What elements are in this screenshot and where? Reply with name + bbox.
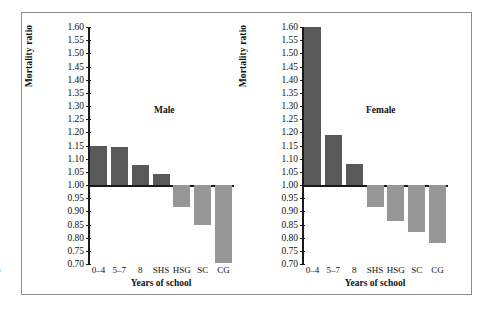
y-tick-label: 1.60: [281, 22, 298, 33]
chart-panel-male: Mortality ratio 1.601.551.501.451.401.35…: [30, 13, 246, 294]
y-tick-label: 1.15: [67, 140, 84, 151]
y-tick-label: 1.10: [67, 153, 84, 164]
y-tick-label: 0.75: [67, 245, 84, 256]
bar-HSG: [173, 185, 190, 207]
bar-HSG: [387, 185, 404, 221]
x-category-label: 0–4: [92, 265, 106, 275]
y-tick-label: 1.05: [67, 166, 84, 177]
x-category-label: 5–7: [327, 265, 341, 275]
figure-frame: Mortality ratio 1.601.551.501.451.401.35…: [21, 12, 472, 295]
y-tick-label: 1.30: [67, 101, 84, 112]
y-tick-label: 1.20: [281, 127, 298, 138]
y-tick-label: 0.90: [67, 206, 84, 217]
bar-57: [325, 135, 342, 185]
y-tick-label: 0.95: [67, 193, 84, 204]
y-axis-title-female: Mortality ratio: [238, 1, 248, 111]
bar-SHS: [153, 174, 170, 185]
y-tick-label: 1.40: [281, 74, 298, 85]
y-tick-label: 0.75: [281, 245, 298, 256]
panel-title-male: Male: [154, 105, 175, 115]
bar-8: [346, 164, 363, 185]
margin-glyph: s: [0, 264, 1, 274]
y-tick-label: 1.05: [281, 166, 298, 177]
plot-area-male: [88, 27, 234, 264]
bar-04: [90, 146, 107, 186]
y-tick-label: 0.80: [281, 232, 298, 243]
bar-SC: [408, 185, 425, 232]
bar-04: [304, 27, 321, 185]
y-tick-label: 1.40: [67, 74, 84, 85]
y-tick-label: 1.55: [281, 35, 298, 46]
x-category-label: SC: [197, 265, 208, 275]
baseline-male: [88, 185, 234, 187]
y-tick-label: 1.00: [67, 180, 84, 191]
y-tick-label: 0.85: [281, 219, 298, 230]
x-category-label: HSG: [173, 265, 191, 275]
bar-8: [132, 165, 149, 185]
y-tick-label: 1.25: [67, 114, 84, 125]
y-tick-label: 1.35: [67, 87, 84, 98]
x-category-label: CG: [431, 265, 444, 275]
y-tick-label: 0.70: [67, 259, 84, 270]
y-axis-ticks-female: 1.601.551.501.451.401.351.301.251.201.15…: [262, 27, 298, 264]
x-category-label: 8: [138, 265, 143, 275]
panel-title-female: Female: [366, 105, 396, 115]
y-tick-label: 1.25: [281, 114, 298, 125]
bar-CG: [429, 185, 446, 243]
x-category-label: CG: [217, 265, 230, 275]
x-category-label: SC: [411, 265, 422, 275]
y-tick-label: 1.15: [281, 140, 298, 151]
x-category-label: 0–4: [306, 265, 320, 275]
y-tick-label: 1.50: [67, 48, 84, 59]
bar-SHS: [367, 185, 384, 207]
x-axis-title-male: Years of school: [76, 278, 246, 288]
x-category-label: SHS: [367, 265, 384, 275]
y-tick-label: 1.35: [281, 87, 298, 98]
x-category-label: HSG: [387, 265, 405, 275]
y-axis-title-male: Mortality ratio: [24, 1, 34, 111]
y-axis-ticks-male: 1.601.551.501.451.401.351.301.251.201.15…: [48, 27, 84, 264]
x-category-label: SHS: [153, 265, 170, 275]
x-axis-categories-female: 0–45–78SHSHSGSCCG: [302, 265, 448, 279]
y-tick-label: 1.00: [281, 180, 298, 191]
y-tick-label: 1.45: [67, 61, 84, 72]
plot-area-female: [302, 27, 448, 264]
y-tick-label: 1.10: [281, 153, 298, 164]
y-tick-label: 0.80: [67, 232, 84, 243]
bar-CG: [215, 185, 232, 263]
y-tick-label: 1.20: [67, 127, 84, 138]
y-tick-label: 1.60: [67, 22, 84, 33]
bar-57: [111, 147, 128, 185]
chart-panel-female: Mortality ratio 1.601.551.501.451.401.35…: [244, 13, 460, 294]
y-tick-label: 1.30: [281, 101, 298, 112]
x-category-label: 5–7: [113, 265, 127, 275]
y-tick-label: 1.50: [281, 48, 298, 59]
y-tick-label: 0.95: [281, 193, 298, 204]
y-tick-label: 1.55: [67, 35, 84, 46]
y-tick-label: 0.70: [281, 259, 298, 270]
x-axis-title-female: Years of school: [290, 278, 460, 288]
y-tick-label: 0.85: [67, 219, 84, 230]
y-tick-label: 1.45: [281, 61, 298, 72]
bar-SC: [194, 185, 211, 225]
x-category-label: 8: [352, 265, 357, 275]
x-axis-categories-male: 0–45–78SHSHSGSCCG: [88, 265, 234, 279]
y-tick-label: 0.90: [281, 206, 298, 217]
